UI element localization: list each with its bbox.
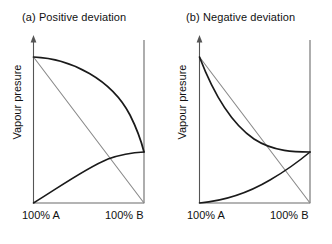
panel-a-y-axis-arrow	[31, 35, 37, 43]
panel-a-plot	[0, 0, 166, 244]
panel-a-raoult-line	[34, 57, 145, 203]
panel-a-total-pressure-curve	[34, 57, 145, 152]
panel-b-plot	[166, 0, 332, 244]
panel-b-total-pressure-curve	[200, 57, 311, 152]
panel-b-raoult-line	[200, 57, 311, 203]
panel-negative-deviation: (b) Negative deviation Vapour presure 10…	[166, 0, 332, 244]
panel-positive-deviation: (a) Positive deviation Vapour presure 10…	[0, 0, 166, 244]
panel-a-partial-pressure-curve	[34, 152, 145, 203]
panel-b-x-label-right: 100% B	[270, 209, 309, 222]
panel-b-x-label-left: 100% A	[187, 209, 225, 222]
panel-a-x-label-left: 100% A	[22, 209, 60, 222]
panel-a-x-label-right: 100% B	[105, 209, 144, 222]
panel-b-partial-pressure-curve	[200, 152, 311, 203]
panel-b-y-axis-arrow	[197, 35, 203, 43]
vapour-pressure-figure: (a) Positive deviation Vapour presure 10…	[0, 0, 332, 244]
